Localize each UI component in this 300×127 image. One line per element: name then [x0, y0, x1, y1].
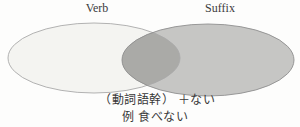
venn-diagram: Verb Suffix （動詞語幹） ＋ない 例 食べない [0, 0, 300, 127]
verb-label: Verb [86, 1, 109, 15]
example-text: 例 食べない [122, 110, 188, 124]
formula-text: （動詞語幹） ＋ない [99, 93, 215, 107]
suffix-label: Suffix [205, 1, 235, 15]
venn-ellipses [0, 0, 300, 127]
